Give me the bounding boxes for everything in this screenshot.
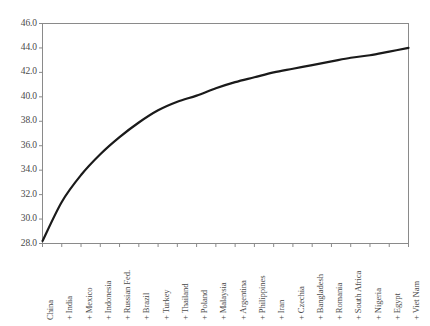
y-axis-tick-label: 30.0: [7, 214, 37, 224]
x-axis-tick-label: + Mexico: [85, 287, 94, 319]
y-axis-tick-label: 40.0: [7, 92, 37, 102]
data-series-line: [43, 48, 409, 241]
x-axis-tick-label: + Turkey: [162, 289, 171, 320]
y-axis-tick-label: 34.0: [7, 165, 37, 175]
x-axis-tick-label: + Nigeria: [374, 288, 383, 320]
y-axis-tick-label: 32.0: [7, 190, 37, 200]
x-axis-tick-label: + Thailand: [181, 283, 190, 319]
x-axis-tick-label: + India: [65, 296, 74, 320]
x-axis-tick-label: + South Africa: [354, 270, 363, 319]
chart-plot-area: [0, 0, 430, 326]
x-axis-tick-label: + Czechia: [297, 286, 306, 320]
x-axis-tick-label: + Iran: [277, 299, 286, 319]
x-axis-tick-label: + Philippines: [258, 275, 267, 319]
x-axis-tick-label: + Viet Nam: [412, 281, 421, 320]
y-axis-tick-label: 28.0: [7, 239, 37, 249]
y-axis-tick-label: 46.0: [7, 19, 37, 29]
x-axis-tick-label: + Egypt: [393, 293, 402, 320]
chart-figure: 28.030.032.034.036.038.040.042.044.046.0…: [0, 0, 430, 326]
x-axis-tick-label: + Romania: [335, 282, 344, 319]
x-axis-tick-label: China: [46, 299, 55, 319]
x-axis-tick-label: + Argentina: [239, 280, 248, 320]
y-axis-tick-label: 42.0: [7, 67, 37, 77]
x-axis-tick-label: + Malaysia: [219, 282, 228, 320]
x-axis-tick-label: + Indonesia: [104, 280, 113, 319]
x-axis-tick-label: + Bangladesh: [316, 274, 325, 320]
x-axis-tick-label: + Russian Fed.: [123, 270, 132, 320]
x-axis-tick-label: + Brazil: [142, 292, 151, 319]
y-axis-tick-label: 44.0: [7, 43, 37, 53]
y-axis-tick-label: 38.0: [7, 116, 37, 126]
y-axis-tick-label: 36.0: [7, 141, 37, 151]
x-axis-tick-label: + Poland: [200, 289, 209, 319]
